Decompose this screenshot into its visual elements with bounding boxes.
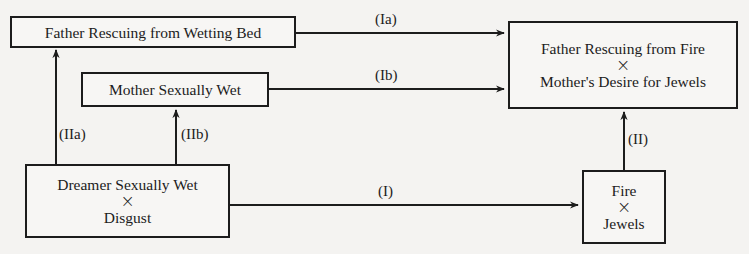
edge-label-ia: (Ia) (375, 11, 397, 27)
edge-label-i: (I) (378, 183, 393, 199)
edge-label-ib: (Ib) (375, 67, 398, 83)
node-label-line2: Jewels (603, 214, 644, 233)
node-label: Mother Sexually Wet (109, 80, 241, 99)
node-fire-jewels: Fire × Jewels (582, 170, 666, 244)
times-operator-icon: × (617, 200, 631, 214)
edge-label-iib: (IIb) (181, 126, 208, 142)
edge-label-ii: (II) (628, 131, 648, 147)
times-operator-icon: × (616, 58, 630, 72)
node-label-line2: Mother's Desire for Jewels (540, 72, 706, 91)
node-label-line2: Disgust (104, 208, 151, 227)
times-operator-icon: × (120, 194, 134, 208)
edge-label-iia: (IIa) (59, 126, 86, 142)
node-mother-sexually-wet: Mother Sexually Wet (81, 72, 269, 107)
node-manifest-content: Father Rescuing from Fire × Mother's Des… (508, 21, 738, 109)
node-label: Father Rescuing from Wetting Bed (45, 23, 261, 42)
node-dreamer-sexually-wet-disgust: Dreamer Sexually Wet × Disgust (25, 164, 230, 238)
node-father-rescuing-wetting-bed: Father Rescuing from Wetting Bed (10, 16, 296, 48)
